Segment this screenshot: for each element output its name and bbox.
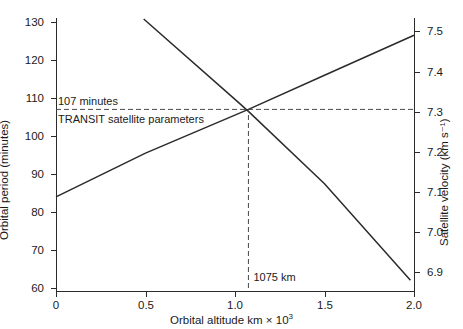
annotation-107-minutes: 107 minutes xyxy=(58,95,118,107)
annotation-1075-km: 1075 km xyxy=(253,271,295,283)
guide-lines-group xyxy=(56,109,414,288)
data-series-group xyxy=(56,19,414,280)
y-axis-left-title: Orbital period (minutes) xyxy=(0,226,178,240)
chart-figure: 13012011010090807060 7.57.47.37.27.17.06… xyxy=(0,0,463,329)
x-axis-title: Orbital altitude km × 103 xyxy=(0,312,463,326)
x-axis-title-exponent: 3 xyxy=(289,312,293,321)
annotation-transit: TRANSIT satellite parameters xyxy=(58,113,204,125)
series-line-satellite-velocity xyxy=(144,19,411,280)
x-axis-title-text: Orbital altitude km × 10 xyxy=(170,314,289,326)
plot-area xyxy=(0,0,463,329)
y-axis-right-title: Satellite velocity (km s⁻¹) xyxy=(437,119,451,246)
